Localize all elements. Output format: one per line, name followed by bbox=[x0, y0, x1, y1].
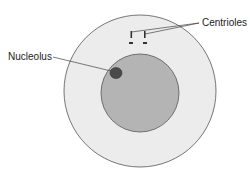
nucleus bbox=[101, 54, 179, 132]
nucleolus-label: Nucleolus bbox=[8, 51, 52, 62]
nucleolus bbox=[110, 68, 122, 79]
centrioles-label: Centrioles bbox=[202, 17, 247, 28]
